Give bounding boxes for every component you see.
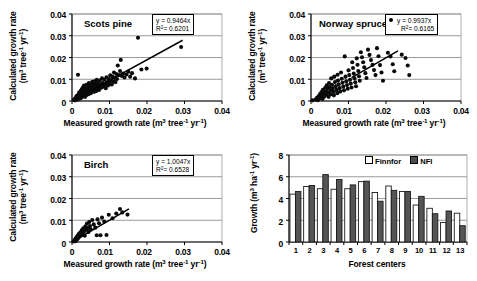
equation-text: y = 0.9937x [397, 17, 431, 24]
x-tick-birch-004: 0.04 [209, 247, 235, 257]
legend-label-nfi: NFI [420, 157, 432, 166]
x-tick-scots-pine-003: 0.03 [170, 106, 196, 116]
annotation-scots-pine: y = 0.9464x R2= 0.6201 [152, 14, 194, 35]
x-axis-label-norway-spruce: Measured growth rate (m3 tree-1 yr-1) [279, 118, 469, 128]
annotation-birch: y = 1.0047x R2= 0.6528 [152, 155, 194, 176]
r-squared-text: R2= 0.6165 [389, 25, 434, 33]
x-tick-norway-spruce-003: 0.03 [409, 106, 435, 116]
x-tick-birch-001: 0.01 [92, 247, 118, 257]
plot-title-norway-spruce: Norway spruce [319, 18, 387, 29]
x-axis-label-forest-centers: Forest centers [287, 259, 467, 269]
x-tick-norway-spruce-004: 0.04 [448, 106, 474, 116]
panel-norway-spruce: Calculated growth rate(m3 tree-1 yr-1) 0… [239, 0, 477, 140]
x-tick-scots-pine-0: 0 [62, 106, 82, 116]
x-tick-birch-0: 0 [62, 247, 82, 257]
plot-title-scots-pine: Scots pine [84, 18, 132, 29]
plot-title-birch: Birch [84, 159, 108, 170]
x-tick-birch-002: 0.02 [131, 247, 157, 257]
x-axis-label-scots-pine: Measured growth rate (m3 tree-1 yr-1) [40, 118, 230, 128]
x-tick-birch-003: 0.03 [170, 247, 196, 257]
r-squared-text: R2= 0.6201 [156, 25, 190, 33]
legend-marker-row: y = 0.9937x [389, 17, 434, 25]
panel-birch: Calculated growth rate(m3 tree-1 yr-1) 0… [0, 141, 238, 281]
open-square-icon [365, 156, 373, 164]
r-squared-text: R2= 0.6528 [156, 166, 190, 174]
x-axis-label-birch: Measured growth rate (m3 tree-1 yr-1) [40, 259, 230, 269]
equation-text: y = 1.0047x [156, 158, 190, 166]
scatter-dot-icon [389, 18, 393, 22]
panel-scots-pine: Calculated growth rate(m3 tree-1 yr-1) 0… [0, 0, 238, 140]
legend-label-finnfor: Finnfor [375, 157, 401, 166]
equation-text: y = 0.9464x [156, 17, 190, 25]
x-tick-forest-center-13: 13 [450, 246, 470, 255]
panel-forest-centers: Growth (m3 ha-1 yr-1) 0 2 4 6 8 FinnforN… [239, 141, 477, 281]
x-tick-norway-spruce-002: 0.02 [370, 106, 396, 116]
x-tick-scots-pine-002: 0.02 [131, 106, 157, 116]
annotation-norway-spruce: y = 0.9937x R2= 0.6165 [385, 14, 438, 35]
figure-panel-grid: Calculated growth rate(m3 tree-1 yr-1) 0… [0, 0, 477, 281]
x-tick-norway-spruce-0: 0 [301, 106, 321, 116]
legend-forest-centers: FinnforNFI [365, 156, 441, 166]
x-tick-scots-pine-004: 0.04 [209, 106, 235, 116]
x-tick-scots-pine-001: 0.01 [92, 106, 118, 116]
x-tick-norway-spruce-001: 0.01 [331, 106, 357, 116]
legend-item-nfi: NFI [410, 157, 432, 166]
legend-item-finnfor: Finnfor [365, 157, 401, 166]
filled-square-icon [410, 156, 418, 164]
